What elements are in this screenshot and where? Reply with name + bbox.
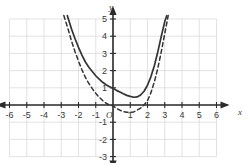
y-axis-arrow-down — [109, 161, 116, 163]
x-tick-label: 4 — [179, 110, 184, 120]
origin-label: O — [106, 110, 113, 120]
x-tick-label: 6 — [214, 110, 219, 120]
x-tick-label: -5 — [23, 110, 31, 120]
graph-figure: -6-5-4-3-2-112345654321-1-2-3 O x y — [0, 0, 247, 163]
curves — [64, 16, 168, 113]
y-tick-label: 5 — [102, 14, 107, 24]
y-tick-label: 4 — [102, 31, 107, 41]
y-tick-label: 2 — [102, 66, 107, 76]
x-axis-arrow-right — [221, 101, 230, 108]
x-tick-label: -4 — [40, 110, 48, 120]
y-axis-label: y — [108, 2, 113, 12]
x-tick-label: -3 — [57, 110, 65, 120]
x-tick-label: 2 — [145, 110, 150, 120]
x-tick-label: -2 — [74, 110, 82, 120]
y-tick-label: -3 — [99, 152, 107, 162]
x-tick-label: -6 — [5, 110, 13, 120]
curve-dashed-parabola — [64, 16, 168, 113]
x-tick-label: 3 — [162, 110, 167, 120]
coordinate-plane: -6-5-4-3-2-112345654321-1-2-3 O x y — [0, 0, 247, 163]
x-axis-label: x — [237, 107, 242, 117]
x-tick-label: 5 — [197, 110, 202, 120]
curve-solid-parabola — [67, 16, 167, 98]
y-tick-label: -2 — [99, 135, 107, 145]
y-tick-label: 3 — [102, 49, 107, 59]
x-axis-arrow-left — [0, 101, 6, 108]
